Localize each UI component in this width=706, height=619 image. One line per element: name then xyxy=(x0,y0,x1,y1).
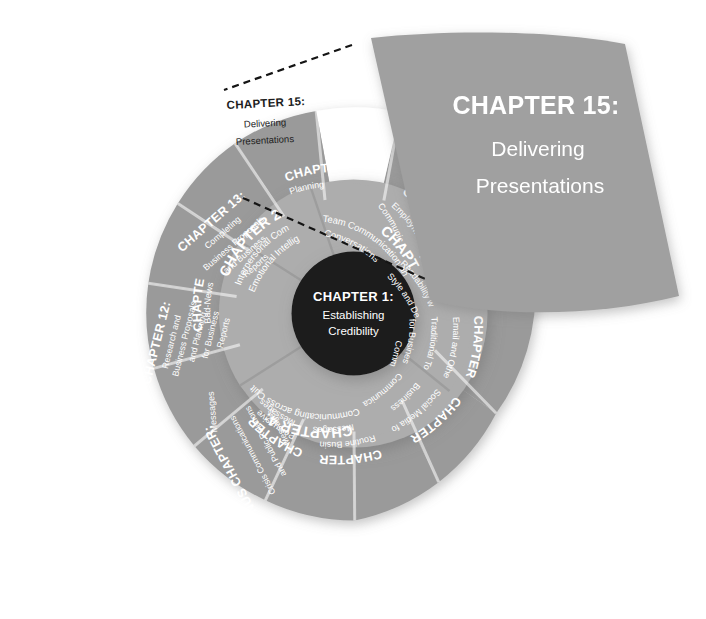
hub-title: CHAPTER 1: xyxy=(313,289,394,304)
leader-line-top xyxy=(224,45,352,90)
chapter-wheel-figure: CHAPTER 1: Establishing Credibility CHAP… xyxy=(0,0,706,619)
label-chapter-15-title: CHAPTER 15: xyxy=(226,95,305,111)
hub-subtitle-2: Credibility xyxy=(328,325,379,337)
callout-subtitle-2: Presentations xyxy=(476,174,604,197)
hub-subtitle-1: Establishing xyxy=(322,309,384,321)
wheel-svg: CHAPTER 1: Establishing Credibility CHAP… xyxy=(0,0,706,619)
callout-subtitle-1: Delivering xyxy=(491,137,584,160)
label-chapter-15-sub1: Delivering xyxy=(244,116,287,129)
callout-title: CHAPTER 15: xyxy=(452,91,619,119)
